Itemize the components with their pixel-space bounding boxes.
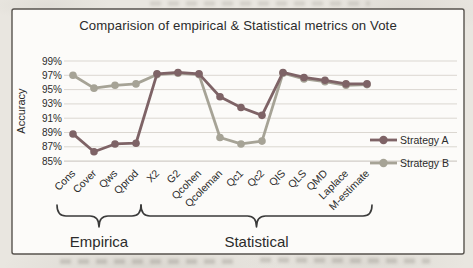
data-point: [69, 72, 77, 80]
data-point: [237, 104, 245, 112]
y-tick-label: 87%: [42, 141, 62, 152]
data-point: [279, 69, 287, 77]
y-axis-title: Accuracy: [15, 88, 27, 134]
chart-panel-border: [12, 9, 464, 254]
data-point: [216, 134, 224, 142]
y-tick-label: 93%: [42, 98, 62, 109]
data-point: [258, 137, 266, 145]
legend-marker-dot: [379, 136, 387, 144]
data-point: [300, 74, 308, 82]
y-tick-label: 85%: [42, 156, 62, 167]
data-point: [90, 148, 98, 156]
y-tick-label: 99%: [42, 56, 62, 67]
chart-title: Comparision of empirical & Statistical m…: [79, 18, 397, 33]
data-point: [321, 77, 329, 85]
data-point: [90, 84, 98, 92]
data-point: [111, 140, 119, 148]
group-label: Empirica: [70, 233, 129, 250]
data-point: [195, 70, 203, 78]
legend-label: Strategy B: [400, 157, 449, 169]
line-chart: Comparision of empirical & Statistical m…: [0, 0, 473, 268]
group-label: Statistical: [224, 233, 288, 250]
legend-label: Strategy A: [400, 134, 448, 146]
data-point: [153, 70, 161, 78]
data-point: [258, 112, 266, 120]
data-point: [174, 69, 182, 77]
data-point: [69, 130, 77, 138]
y-tick-label: 95%: [42, 84, 62, 95]
data-point: [363, 80, 371, 88]
data-point: [132, 139, 140, 147]
legend-marker-dot: [379, 159, 387, 167]
y-tick-label: 89%: [42, 127, 62, 138]
y-tick-label: 91%: [42, 113, 62, 124]
data-point: [111, 82, 119, 90]
data-point: [132, 80, 140, 88]
data-point: [342, 80, 350, 88]
data-point: [216, 93, 224, 101]
data-point: [237, 140, 245, 148]
y-tick-label: 97%: [42, 70, 62, 81]
